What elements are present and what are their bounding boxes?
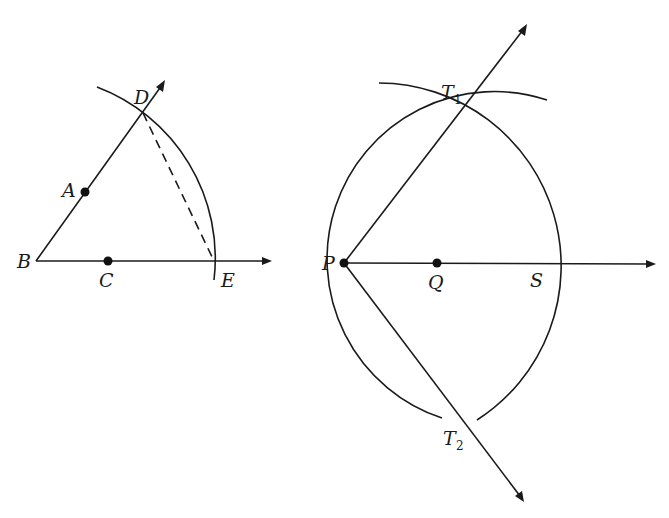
label-q: Q [428, 271, 444, 293]
label-a: A [60, 179, 76, 201]
label-c: C [99, 269, 114, 291]
left-figure: B A C D E [16, 80, 272, 291]
point-c [104, 257, 113, 266]
label-t2: T [443, 427, 457, 449]
label-e: E [220, 269, 235, 291]
label-d: D [133, 86, 149, 108]
label-b: B [16, 250, 31, 272]
point-p [340, 259, 349, 268]
point-a [81, 188, 90, 197]
label-s: S [530, 269, 543, 291]
geometry-diagram: B A C D E P Q S T 1 T 2 [0, 0, 669, 518]
arrowhead-be-icon [262, 257, 272, 265]
arrowhead-pt2-icon [515, 491, 524, 502]
arc-s-centered [327, 92, 547, 418]
ray-pt2 [344, 263, 520, 496]
arc-p-centered [379, 83, 561, 420]
arc-b-centered [97, 87, 215, 280]
ray-ps [344, 263, 648, 264]
point-q [433, 259, 442, 268]
ray-bd [36, 85, 162, 261]
arrowhead-ps-icon [646, 260, 656, 268]
segment-de-dashed [143, 113, 214, 261]
label-p: P [321, 252, 336, 274]
label-t2-subscript: 2 [456, 439, 464, 453]
right-figure: P Q S T 1 T 2 [321, 24, 656, 502]
label-t1-subscript: 1 [454, 93, 462, 107]
label-t1: T [441, 81, 455, 103]
